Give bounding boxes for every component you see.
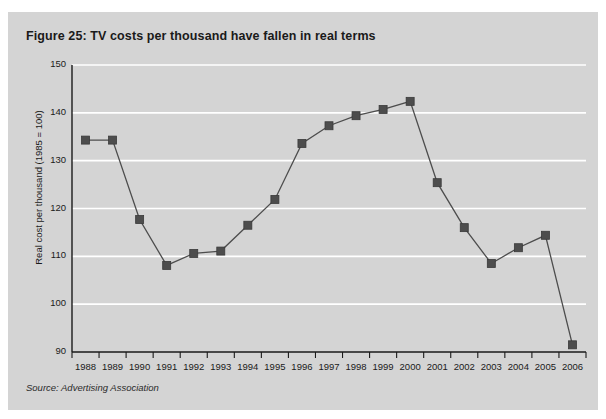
y-axis-tick-label: 90 — [36, 345, 66, 356]
y-axis-tick-label: 120 — [36, 202, 66, 213]
source-note: Source: Advertising Association — [26, 382, 159, 393]
figure-panel: Figure 25: TV costs per thousand have fa… — [8, 12, 598, 410]
x-axis-tick-label: 2006 — [552, 361, 592, 372]
chart-plot-svg — [8, 12, 598, 410]
y-axis-tick-label: 150 — [36, 58, 66, 69]
line-chart: Real cost per thousand (1985 = 100) 9010… — [8, 12, 598, 410]
y-axis-tick-label: 100 — [36, 297, 66, 308]
y-axis-tick-label: 130 — [36, 154, 66, 165]
y-axis-tick-label: 110 — [36, 249, 66, 260]
y-axis-tick-label: 140 — [36, 106, 66, 117]
